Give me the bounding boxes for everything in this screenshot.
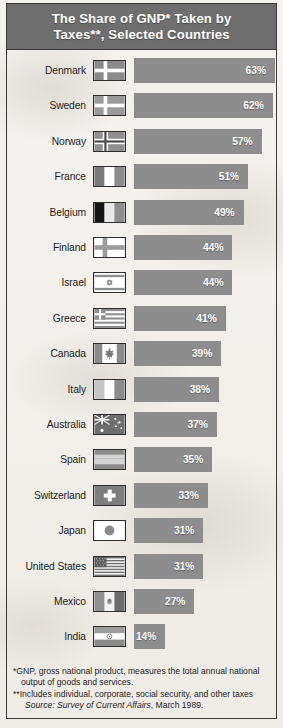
flag-united-states-icon xyxy=(93,556,126,577)
footnote-gnp-line-2: output of goods and services. xyxy=(13,677,271,688)
flag-switzerland-icon xyxy=(93,485,126,506)
bar-value-label: 44% xyxy=(203,242,232,253)
country-label: Greece xyxy=(7,313,93,324)
country-label: Israel xyxy=(7,277,93,288)
source-prefix: Source: xyxy=(25,700,57,710)
flag-sweden-icon xyxy=(93,95,126,116)
page-title: The Share of GNP* Taken by Taxes**, Sele… xyxy=(44,11,240,43)
bar-value-label: 49% xyxy=(214,207,243,218)
bar-value-label: 57% xyxy=(232,136,261,147)
bar-track: 38% xyxy=(134,377,276,402)
country-label: Norway xyxy=(7,136,93,147)
footnote-taxes: **Includes individual, corporate, social… xyxy=(13,689,271,700)
country-label: Belgium xyxy=(7,207,93,218)
bar-track: 49% xyxy=(134,200,276,225)
value-bar: 57% xyxy=(134,129,262,154)
value-bar: 51% xyxy=(134,164,248,189)
flag-australia-icon xyxy=(93,414,126,435)
bar-value-label: 14% xyxy=(136,631,165,642)
value-bar: 14% xyxy=(134,624,165,649)
value-bar: 62% xyxy=(134,93,273,118)
bar-value-label: 38% xyxy=(190,384,219,395)
bar-row: France51% xyxy=(7,164,276,189)
bar-track: 37% xyxy=(134,412,276,437)
country-label: Finland xyxy=(7,242,93,253)
bar-value-label: 39% xyxy=(192,348,221,359)
country-label: United States xyxy=(7,561,93,572)
bar-value-label: 41% xyxy=(196,313,225,324)
bar-value-label: 44% xyxy=(203,277,232,288)
country-label: Canada xyxy=(7,348,93,359)
flag-belgium-icon xyxy=(93,202,126,223)
country-label: India xyxy=(7,631,93,642)
bar-track: 39% xyxy=(134,341,276,366)
country-label: France xyxy=(7,171,93,182)
footnote-gnp-line-1: *GNP, gross national product, measures t… xyxy=(13,666,271,677)
value-bar: 35% xyxy=(134,447,212,472)
value-bar: 49% xyxy=(134,200,244,225)
bar-value-label: 37% xyxy=(187,419,216,430)
infographic-chart: The Share of GNP* Taken by Taxes**, Sele… xyxy=(0,0,283,728)
value-bar: 31% xyxy=(134,518,203,543)
value-bar: 44% xyxy=(134,235,232,260)
bar-row: Denmark63% xyxy=(7,58,276,83)
bar-track: 57% xyxy=(134,129,276,154)
bar-track: 41% xyxy=(134,306,276,331)
flag-france-icon xyxy=(93,166,126,187)
bar-row: Japan31% xyxy=(7,518,276,543)
bar-track: 44% xyxy=(134,270,276,295)
flag-israel-icon xyxy=(93,272,126,293)
flag-denmark-icon xyxy=(93,60,126,81)
value-bar: 27% xyxy=(134,589,194,614)
bar-track: 35% xyxy=(134,447,276,472)
bar-rows-container: Denmark63%Sweden62%Norway57%France51%Bel… xyxy=(7,51,276,660)
country-label: Mexico xyxy=(7,596,93,607)
flag-japan-icon xyxy=(93,520,126,541)
bar-track: 63% xyxy=(134,58,276,83)
source-publication: Survey of Current Affairs xyxy=(57,700,151,710)
bar-value-label: 33% xyxy=(178,490,207,501)
bar-row: Norway57% xyxy=(7,129,276,154)
bar-track: 14% xyxy=(134,624,276,649)
value-bar: 38% xyxy=(134,377,219,402)
footnotes: *GNP, gross national product, measures t… xyxy=(13,666,271,712)
bar-value-label: 51% xyxy=(219,171,248,182)
country-label: Switzerland xyxy=(7,490,93,501)
value-bar: 41% xyxy=(134,306,226,331)
bar-row: Switzerland33% xyxy=(7,483,276,508)
bar-row: Australia37% xyxy=(7,412,276,437)
bar-value-label: 27% xyxy=(165,596,194,607)
flag-canada-icon xyxy=(93,343,126,364)
bar-row: India14% xyxy=(7,624,276,649)
bar-row: United States31% xyxy=(7,554,276,579)
bar-row: Sweden62% xyxy=(7,93,276,118)
bar-row: Italy38% xyxy=(7,377,276,402)
source-date: , March 1989. xyxy=(151,700,204,710)
bar-track: 31% xyxy=(134,554,276,579)
country-label: Japan xyxy=(7,525,93,536)
bar-row: Finland44% xyxy=(7,235,276,260)
bar-track: 62% xyxy=(134,93,276,118)
flag-italy-icon xyxy=(93,379,126,400)
bar-track: 51% xyxy=(134,164,276,189)
bar-row: Belgium49% xyxy=(7,200,276,225)
bar-row: Mexico27% xyxy=(7,589,276,614)
country-label: Italy xyxy=(7,384,93,395)
bar-track: 31% xyxy=(134,518,276,543)
bar-track: 27% xyxy=(134,589,276,614)
country-label: Spain xyxy=(7,454,93,465)
country-label: Sweden xyxy=(7,100,93,111)
bar-value-label: 31% xyxy=(174,561,203,572)
value-bar: 44% xyxy=(134,270,232,295)
chart-title-band: The Share of GNP* Taken by Taxes**, Sele… xyxy=(6,3,277,50)
flag-greece-icon xyxy=(93,308,126,329)
country-label: Australia xyxy=(7,419,93,430)
value-bar: 63% xyxy=(134,58,275,83)
title-line-2: Taxes**, Selected Countries xyxy=(53,27,229,42)
value-bar: 31% xyxy=(134,554,203,579)
flag-india-icon xyxy=(93,626,126,647)
bar-track: 33% xyxy=(134,483,276,508)
flag-mexico-icon xyxy=(93,591,126,612)
flag-norway-icon xyxy=(93,131,126,152)
bar-row: Israel44% xyxy=(7,270,276,295)
